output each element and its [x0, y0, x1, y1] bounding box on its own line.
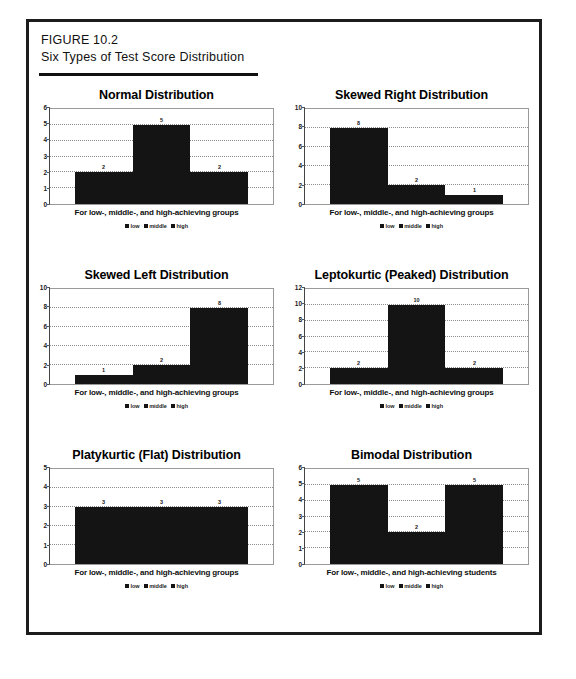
bar-middle: 3 [133, 507, 191, 564]
legend-label: middle [404, 223, 422, 229]
legend-swatch-icon [426, 584, 430, 588]
bar-value-label: 5 [133, 117, 191, 123]
y-tick-label: 1 [43, 543, 47, 549]
legend-label: low [385, 403, 394, 409]
plot-box: 821 [305, 108, 529, 205]
bar-value-label: 3 [75, 499, 133, 505]
y-tick-label: 2 [43, 363, 47, 369]
y-axis: 012345 [35, 468, 50, 565]
figure-page: FIGURE 10.2 Six Types of Test Score Dist… [26, 19, 542, 635]
chart-skewed-right-distribution: Skewed Right Distribution0246810821For l… [284, 88, 539, 268]
y-tick-label: 12 [295, 285, 302, 291]
bar-middle: 2 [133, 365, 191, 384]
legend-item-middle: middle [144, 583, 167, 589]
legend-swatch-icon [380, 404, 384, 408]
legend-item-low: low [125, 403, 140, 409]
y-axis: 024681012 [290, 288, 305, 385]
legend-item-high: high [426, 403, 443, 409]
bar-low: 2 [330, 368, 388, 384]
bar-value-label: 2 [388, 524, 446, 530]
legend-label: middle [404, 403, 422, 409]
y-tick-label: 5 [43, 465, 47, 471]
x-axis-label: For low-, middle-, and high-achieving gr… [284, 388, 539, 397]
legend-swatch-icon [380, 584, 384, 588]
bar-high: 2 [445, 368, 503, 384]
y-tick-label: 0 [298, 382, 302, 388]
y-tick-label: 8 [298, 317, 302, 323]
legend-label: middle [149, 223, 167, 229]
chart-legend: lowmiddlehigh [29, 223, 284, 229]
plot-area: 0123456525 [284, 468, 539, 565]
legend-label: low [385, 223, 394, 229]
bar-high: 2 [190, 172, 248, 204]
plot-area: 012345333 [29, 468, 284, 565]
y-tick-label: 6 [298, 334, 302, 340]
y-tick-label: 8 [298, 124, 302, 130]
bar-value-label: 8 [190, 300, 248, 306]
y-axis: 0246810 [35, 288, 50, 385]
x-axis-label: For low-, middle-, and high-achieving gr… [29, 568, 284, 577]
figure-header: FIGURE 10.2 Six Types of Test Score Dist… [41, 32, 341, 65]
bar-value-label: 8 [330, 120, 388, 126]
legend-label: middle [404, 583, 422, 589]
bar-middle: 2 [388, 532, 446, 564]
legend-label: high [431, 403, 443, 409]
x-axis-label: For low-, middle-, and high-achieving gr… [284, 208, 539, 217]
legend-item-low: low [380, 223, 395, 229]
legend-item-high: high [426, 223, 443, 229]
bar-middle: 10 [388, 305, 446, 384]
x-axis-label: For low-, middle-, and high-achieving gr… [29, 388, 284, 397]
legend-label: high [431, 223, 443, 229]
x-axis-label: For low-, middle-, and high-achieving gr… [29, 208, 284, 217]
plot-box: 2102 [305, 288, 529, 385]
y-tick-label: 2 [298, 183, 302, 189]
bar-middle: 5 [133, 125, 191, 204]
plot-area: 0246810122102 [284, 288, 539, 385]
plot-box: 128 [50, 288, 274, 385]
legend-label: high [431, 583, 443, 589]
y-tick-label: 8 [43, 304, 47, 310]
chart-platykurtic-flat-distribution: Platykurtic (Flat) Distribution012345333… [29, 448, 284, 638]
plot-box: 252 [50, 108, 274, 205]
charts-grid: Normal Distribution0123456252For low-, m… [29, 88, 539, 638]
legend-item-low: low [380, 583, 395, 589]
chart-title: Normal Distribution [29, 88, 284, 102]
legend-item-middle: middle [399, 223, 422, 229]
chart-legend: lowmiddlehigh [284, 403, 539, 409]
chart-title: Bimodal Distribution [284, 448, 539, 462]
legend-label: high [176, 223, 188, 229]
chart-normal-distribution: Normal Distribution0123456252For low-, m… [29, 88, 284, 268]
plot-box: 333 [50, 468, 274, 565]
bar-value-label: 2 [75, 164, 133, 170]
bar-value-label: 3 [133, 499, 191, 505]
bar-value-label: 2 [388, 177, 446, 183]
legend-label: high [176, 403, 188, 409]
legend-item-low: low [125, 223, 140, 229]
y-tick-label: 10 [295, 301, 302, 307]
figure-number: FIGURE 10.2 [41, 32, 341, 48]
legend-swatch-icon [399, 404, 403, 408]
y-tick-label: 10 [40, 285, 47, 291]
chart-title: Skewed Right Distribution [284, 88, 539, 102]
y-tick-label: 6 [298, 144, 302, 150]
legend-label: middle [149, 403, 167, 409]
chart-title: Leptokurtic (Peaked) Distribution [284, 268, 539, 282]
bar-value-label: 3 [190, 499, 248, 505]
chart-skewed-left-distribution: Skewed Left Distribution0246810128For lo… [29, 268, 284, 448]
y-tick-label: 0 [43, 202, 47, 208]
legend-item-high: high [171, 403, 188, 409]
bar-low: 2 [75, 172, 133, 204]
bars-layer: 333 [50, 469, 273, 564]
bar-high: 3 [190, 507, 248, 564]
y-tick-label: 5 [43, 121, 47, 127]
legend-swatch-icon [125, 224, 129, 228]
legend-swatch-icon [171, 224, 175, 228]
bar-value-label: 5 [330, 477, 388, 483]
y-tick-label: 6 [298, 465, 302, 471]
bars-layer: 2102 [305, 289, 528, 384]
bar-value-label: 5 [445, 477, 503, 483]
y-axis: 0246810 [290, 108, 305, 205]
legend-swatch-icon [399, 224, 403, 228]
bar-low: 5 [330, 485, 388, 564]
legend-swatch-icon [399, 584, 403, 588]
